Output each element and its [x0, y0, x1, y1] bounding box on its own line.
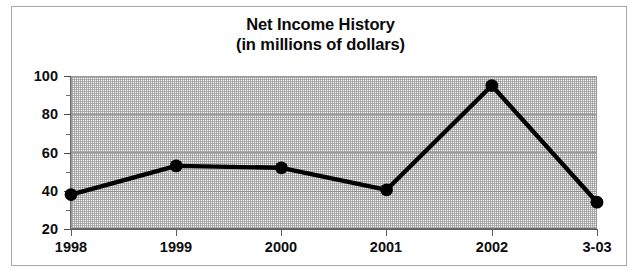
x-axis-label-1998: 1998	[26, 239, 116, 255]
y-tick-60	[64, 153, 71, 154]
y-axis-label-60: 60	[14, 146, 58, 160]
y-axis-label-80: 80	[14, 107, 58, 121]
x-tick-3	[386, 230, 387, 236]
y-tick-100	[64, 76, 71, 77]
chart-figure: Net Income History (in millions of dolla…	[0, 0, 641, 280]
x-tick-1	[176, 230, 177, 236]
gridline-80	[71, 114, 597, 115]
y-tick-minor-70	[66, 134, 70, 135]
x-axis-label-2001: 2001	[341, 239, 431, 255]
y-tick-40	[64, 191, 71, 192]
x-axis-label-1999: 1999	[131, 239, 221, 255]
y-axis-label-40: 40	[14, 184, 58, 198]
x-tick-4	[492, 230, 493, 236]
gridline-60	[71, 152, 597, 153]
x-tick-5	[597, 230, 598, 236]
x-axis-label-2002: 2002	[447, 239, 537, 255]
y-tick-minor-30	[66, 210, 70, 211]
y-tick-minor-90	[66, 95, 70, 96]
plot-area	[71, 76, 597, 229]
x-tick-0	[71, 230, 72, 236]
gridline-40	[71, 191, 597, 192]
x-axis-label-3-03: 3-03	[552, 239, 641, 255]
y-tick-minor-50	[66, 172, 70, 173]
y-axis-label-20: 20	[14, 222, 58, 236]
x-tick-2	[281, 230, 282, 236]
x-axis-label-2000: 2000	[236, 239, 326, 255]
y-axis-label-100: 100	[14, 69, 58, 83]
y-tick-80	[64, 114, 71, 115]
x-axis-line	[70, 229, 598, 230]
